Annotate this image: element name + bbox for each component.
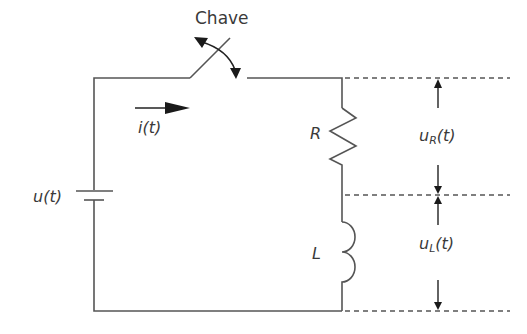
voltage-subscript: R: [429, 134, 437, 147]
inductor-voltage-label: uL(t): [419, 236, 454, 254]
switch-curved-arrow: [194, 37, 241, 79]
voltage-base: u: [419, 234, 429, 253]
source-label: u(t): [33, 189, 62, 205]
inductor-symbol: [342, 222, 355, 311]
resistor-label: R: [310, 126, 321, 142]
switch-blade: [190, 38, 230, 78]
inductor-label: L: [312, 246, 321, 262]
voltage-suffix: (t): [435, 234, 454, 253]
resistor-symbol: [330, 108, 356, 222]
wire-left-bottom: [94, 200, 342, 311]
circuit-diagram: [0, 0, 527, 334]
voltage-suffix: (t): [437, 126, 456, 145]
wire-top-right: [247, 78, 342, 108]
current-arrow: [135, 102, 190, 114]
voltage-base: u: [419, 126, 429, 145]
resistor-voltage-label: uR(t): [419, 128, 456, 146]
switch-label: Chave: [195, 10, 249, 27]
current-label: i(t): [138, 120, 161, 136]
